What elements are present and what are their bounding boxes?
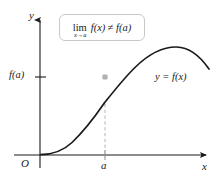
curve-left-branch (41, 104, 105, 155)
limit-statement-math: lim x→a f(x) ≠ f(a) (73, 22, 132, 33)
limit-rhs: f(a) (116, 22, 131, 33)
y-tick-label-fa: f(a) (9, 70, 24, 81)
limit-discontinuity-figure: y x O a f(a) y = f(x) lim x→a f(x) ≠ f(a… (0, 0, 216, 177)
curve-equation-label: y = f(x) (155, 72, 187, 83)
limit-subscript: x→a (74, 31, 87, 38)
limit-statement-callout: lim x→a f(x) ≠ f(a) (59, 14, 145, 41)
y-axis-label: y (29, 10, 34, 21)
x-axis-label: x (202, 161, 207, 172)
not-equal-icon: ≠ (105, 22, 116, 33)
origin-label: O (21, 158, 29, 169)
limit-operator: lim x→a (73, 22, 88, 33)
limit-lhs: f(x) (91, 22, 106, 33)
point-marker-a-fa (102, 74, 107, 79)
x-tick-label-a: a (101, 160, 107, 171)
